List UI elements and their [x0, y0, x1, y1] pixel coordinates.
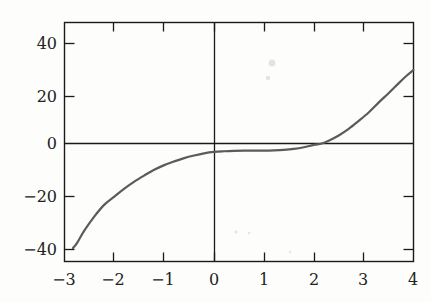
scan-noise [234, 60, 291, 254]
y-tick-label-0: 0 [47, 134, 57, 153]
x-tick-label-4: 4 [408, 270, 418, 289]
x-tick-label-1: 1 [259, 270, 269, 289]
plot-frame [65, 23, 414, 262]
x-tick-label-neg2: −2 [101, 270, 125, 289]
x-tick-label-2: 2 [309, 270, 319, 289]
figure-container: 40 20 0 −20 −40 −3 −2 −1 0 1 2 3 4 [0, 0, 431, 302]
top-tick-marks [114, 23, 364, 32]
left-tick-marks [65, 44, 75, 250]
function-curve [73, 70, 414, 248]
x-tick-label-neg3: −3 [52, 270, 76, 289]
function-plot: 40 20 0 −20 −40 −3 −2 −1 0 1 2 3 4 [0, 0, 431, 302]
bottom-tick-marks [114, 253, 364, 262]
x-tick-label-3: 3 [358, 270, 368, 289]
y-tick-label-20: 20 [37, 87, 57, 106]
x-tick-labels: −3 −2 −1 0 1 2 3 4 [52, 270, 418, 289]
y-tick-label-neg20: −20 [23, 187, 57, 206]
y-tick-labels: 40 20 0 −20 −40 [23, 34, 57, 259]
y-tick-label-neg40: −40 [23, 240, 57, 259]
x-tick-label-0: 0 [209, 270, 219, 289]
y-tick-label-40: 40 [37, 34, 57, 53]
x-tick-label-neg1: −1 [151, 270, 175, 289]
